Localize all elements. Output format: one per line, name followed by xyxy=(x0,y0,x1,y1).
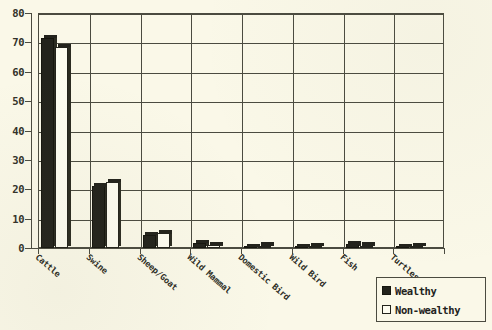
bar-group-sheep-goat xyxy=(140,13,191,248)
y-tick-label-60: 60 xyxy=(0,66,24,78)
bar-non-wealthy-cattle xyxy=(55,47,68,248)
y-tick-label-50: 50 xyxy=(0,95,24,107)
x-label-wild-bird: Wild Bird xyxy=(287,252,327,289)
bar-top-cap xyxy=(44,35,57,38)
y-tick-50 xyxy=(25,101,32,102)
bar-group-turtles xyxy=(393,13,444,248)
y-tick-label-40: 40 xyxy=(0,125,24,137)
bar-top-cap xyxy=(108,179,121,182)
y-tick-60 xyxy=(25,72,32,73)
bar-side-face xyxy=(68,44,71,245)
bar-non-wealthy-swine xyxy=(106,182,119,248)
bar-wealthy-sheep-goat xyxy=(143,235,156,248)
x-label-sheep-goat: Sheep/Goat xyxy=(135,252,179,292)
y-tick-20 xyxy=(25,189,32,190)
bar-group-domestic-bird xyxy=(241,13,292,248)
bar-top-cap xyxy=(261,242,274,245)
bar-non-wealthy-sheep-goat xyxy=(157,233,170,248)
x-label-cattle: Cattle xyxy=(33,252,62,279)
bar-top-cap xyxy=(210,242,223,245)
bar-chart: 01020304050607080 CattleSwineSheep/GoatW… xyxy=(0,0,492,330)
bar-group-swine xyxy=(89,13,140,248)
y-tick-label-30: 30 xyxy=(0,154,24,166)
y-tick-label-10: 10 xyxy=(0,213,24,225)
bar-top-cap xyxy=(58,44,71,47)
bar-front-face xyxy=(143,235,156,248)
bar-top-cap xyxy=(413,243,426,246)
x-axis-line xyxy=(31,248,444,249)
x-label-domestic-bird: Domestic Bird xyxy=(236,252,291,302)
x-tick-8 xyxy=(444,248,445,254)
bar-front-face xyxy=(92,186,105,248)
legend-swatch-hollow-icon xyxy=(382,305,391,314)
legend-swatch-filled-icon xyxy=(382,286,391,295)
y-tick-label-0: 0 xyxy=(0,242,24,254)
x-label-wild-mammal: Wild Mammal xyxy=(186,252,234,295)
bar-group-fish xyxy=(343,13,394,248)
bar-top-cap xyxy=(311,243,324,246)
y-tick-70 xyxy=(25,42,32,43)
bar-top-cap xyxy=(348,241,361,244)
bar-series-layer xyxy=(38,13,444,248)
bar-wealthy-cattle xyxy=(41,38,54,248)
bar-front-face xyxy=(55,47,68,248)
bar-wealthy-swine xyxy=(92,186,105,248)
bar-top-cap xyxy=(196,240,209,243)
bar-top-cap xyxy=(362,242,375,245)
y-tick-30 xyxy=(25,160,32,161)
bar-group-wild-bird xyxy=(292,13,343,248)
bar-top-cap xyxy=(159,230,172,233)
bar-front-face xyxy=(41,38,54,248)
y-tick-label-80: 80 xyxy=(0,7,24,19)
legend-label-non-wealthy: Non-wealthy xyxy=(395,304,460,316)
bar-group-wild-mammal xyxy=(190,13,241,248)
bar-group-cattle xyxy=(38,13,89,248)
legend-item-wealthy: Wealthy xyxy=(382,281,481,300)
bar-front-face xyxy=(157,233,170,248)
y-tick-40 xyxy=(25,131,32,132)
legend-label-wealthy: Wealthy xyxy=(395,285,436,297)
y-tick-label-70: 70 xyxy=(0,36,24,48)
y-tick-label-20: 20 xyxy=(0,183,24,195)
y-tick-10 xyxy=(25,219,32,220)
chart-legend: Wealthy Non-wealthy xyxy=(376,277,486,322)
bar-side-face xyxy=(118,179,121,245)
bar-front-face xyxy=(106,182,119,248)
x-label-swine: Swine xyxy=(84,252,109,276)
y-tick-80 xyxy=(25,13,32,14)
legend-item-non-wealthy: Non-wealthy xyxy=(382,300,481,319)
x-label-fish: Fish xyxy=(338,252,360,273)
